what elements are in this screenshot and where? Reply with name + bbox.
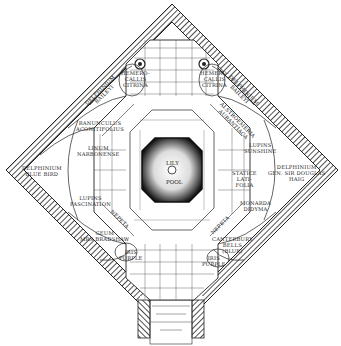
fountain-icon [168, 166, 176, 174]
bed-label-statice: Statice Lati- folia [232, 170, 257, 188]
bed-label-linum: Linum Narbonense [77, 145, 120, 157]
bed-label-delphinium-blue-bird: Delphinium Blue Bird [22, 165, 62, 177]
bed-label-lupins-fascination: Lupins Fascination [70, 195, 111, 207]
bed-label-ranunculus: Ranunculus Aconitifolius [76, 120, 124, 132]
entrance-gate [138, 296, 204, 344]
lily-pool [142, 138, 202, 202]
bed-label-iris-left: Iris Purple [119, 249, 143, 261]
pool-label-bottom: POOL [166, 179, 182, 185]
bed-label-monarda: Monarda Didyma [240, 200, 271, 212]
pool-label-top: LILY [166, 160, 179, 166]
bed-label-hemerocallis-left: Hemero- callis Citrina [121, 70, 150, 88]
bed-label-campanula: Canterbury Bells (Blue) [212, 236, 253, 254]
bed-label-geum: Geum Mrs Bradshaw [80, 230, 129, 242]
bed-label-lupins-sunshine: Lupins Sunshine [244, 142, 277, 154]
bed-label-delphinium-sir-douglas: Delphinium Gen. Sir Douglas Haig [268, 164, 325, 182]
bed-label-iris-right: Iris Purple [202, 255, 226, 267]
bed-label-hemerocallis-right: Hemero- callis Citrina [200, 70, 229, 88]
